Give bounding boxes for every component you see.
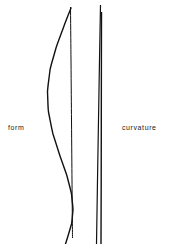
panel-label-form: form	[8, 124, 24, 132]
canvas-background	[0, 0, 171, 244]
panel-label-curvature: curvature	[122, 124, 157, 132]
curvature-line-right	[101, 12, 102, 244]
diagram-canvas	[0, 0, 171, 244]
